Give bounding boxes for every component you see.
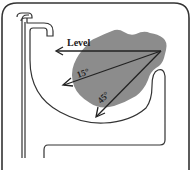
caption-fragment (10, 161, 190, 170)
label-level: Level (67, 37, 91, 48)
bowl-angle-diagram: Level 15° 45° (0, 0, 191, 170)
faucet-spout (27, 18, 53, 36)
faucet-head (17, 13, 32, 21)
